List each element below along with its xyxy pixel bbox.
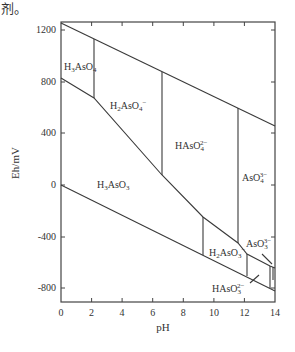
x-tick-6: 6 [150, 307, 155, 318]
plot-frame [61, 22, 275, 302]
label-haso3: HAsO32− [212, 282, 245, 296]
upper-water-line [61, 23, 275, 126]
x-tick-12: 12 [239, 307, 249, 318]
pourbaix-diagram: 1200 800 400 0 -400 -800 0 2 4 6 8 10 12… [0, 0, 295, 352]
label-h2aso4: H2AsO4− [110, 99, 147, 113]
x-ticks [92, 22, 245, 302]
y-tick-1200: 1200 [36, 24, 56, 35]
y-tick-800: 800 [41, 76, 56, 87]
label-haso4: HAsO42− [175, 139, 208, 153]
label-aso4: AsO43− [242, 171, 267, 185]
x-tick-14: 14 [270, 307, 280, 318]
x-tick-10: 10 [209, 307, 219, 318]
y-axis-title: Eh/mV [9, 147, 21, 179]
y-tick-neg400: -400 [38, 231, 56, 242]
label-h2aso3: H2AsO3− [209, 246, 246, 260]
x-tick-4: 4 [120, 307, 125, 318]
x-axis-title: pH [156, 321, 170, 333]
y-tick-neg800: -800 [38, 282, 56, 293]
lower-water-line [61, 185, 275, 291]
x-tick-0: 0 [59, 307, 64, 318]
label-aso3: AsO33− [246, 237, 271, 251]
x-tick-8: 8 [181, 307, 186, 318]
y-tick-0: 0 [51, 179, 56, 190]
label-h3aso4: H3AsO4 [64, 61, 97, 74]
label-h3aso3: H3AsO3 [97, 179, 130, 192]
y-tick-400: 400 [41, 127, 56, 138]
x-tick-2: 2 [89, 307, 94, 318]
